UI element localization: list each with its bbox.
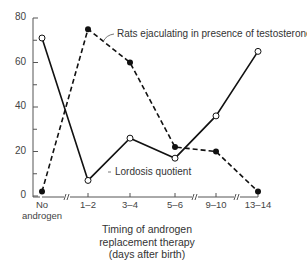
data-point-filled (172, 144, 178, 150)
data-point-open (39, 35, 45, 41)
x-axis-title: Timing of androgen replacement therapy (… (67, 223, 227, 260)
label-leader-ejaculation (103, 34, 114, 42)
data-point-open (172, 155, 178, 161)
data-point-open (213, 113, 219, 119)
series-label-lordosis: Lordosis quotient (115, 167, 191, 177)
data-point-filled (85, 26, 91, 32)
y-tick-label: 0 (6, 190, 26, 200)
x-axis-title-line-2: replacement therapy (67, 236, 227, 249)
data-point-open (255, 48, 261, 54)
x-tick-label: 13–14 (233, 200, 283, 211)
y-tick-label: 80 (6, 12, 26, 22)
data-point-filled (213, 149, 219, 155)
x-axis-title-line-1: Timing of androgen (67, 223, 227, 236)
x-tick-label: Noandrogen (17, 200, 67, 222)
series-label-ejaculation: Rats ejaculating in presence of testoste… (117, 29, 307, 39)
x-tick-label-line: 13–14 (233, 200, 283, 211)
x-axis-title-line-3: (days after birth) (67, 248, 227, 260)
data-point-open (85, 177, 91, 183)
data-point-open (127, 135, 133, 141)
x-tick-label-line: androgen (17, 211, 67, 222)
series-line-1 (42, 38, 258, 180)
data-point-filled (127, 60, 133, 66)
data-point-filled (255, 189, 261, 195)
data-point-filled (39, 189, 45, 195)
y-tick-label: 60 (6, 57, 26, 67)
y-tick-label: 20 (6, 146, 26, 156)
y-tick-label: 40 (6, 101, 26, 111)
x-tick-label-line: 3–4 (105, 200, 155, 211)
x-tick-label: 3–4 (105, 200, 155, 211)
